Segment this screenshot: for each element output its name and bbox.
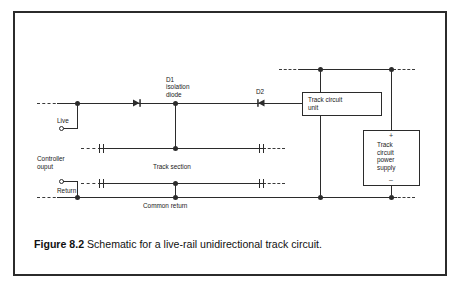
diode-d2-designator: D2 bbox=[256, 88, 264, 96]
wire-unit-to-common-return bbox=[320, 116, 321, 195]
label-live: Live bbox=[57, 117, 69, 125]
wire-live-terminal-lead bbox=[63, 128, 78, 129]
common-return-wire bbox=[57, 197, 397, 198]
common-return-dash-right bbox=[393, 197, 415, 198]
upper-rail-dash-right bbox=[263, 148, 285, 149]
node-common-return-unit bbox=[318, 195, 323, 200]
figure-page: D1 isolation diode D2 Track circuit unit… bbox=[0, 0, 460, 291]
wire-return-terminal-drop bbox=[77, 181, 78, 196]
terminal-live bbox=[59, 126, 64, 131]
wire-live-feed-to-upper-rail bbox=[175, 103, 176, 149]
track-circuit-power-supply-label: Track circuit power supply bbox=[377, 141, 395, 171]
upper-rail-dash-left bbox=[81, 148, 101, 149]
label-controller-output: Controller ouput bbox=[37, 155, 65, 170]
wire-top-bus-to-supply bbox=[391, 69, 392, 130]
power-supply-positive-sign: + bbox=[389, 132, 393, 139]
diode-d1-description: isolation diode bbox=[166, 83, 189, 98]
label-track-section: Track section bbox=[153, 163, 191, 171]
diode-d1-icon bbox=[132, 98, 143, 108]
top-bus-wire bbox=[299, 69, 395, 70]
label-common-return: Common return bbox=[143, 202, 187, 210]
wire-return-terminal-lead bbox=[63, 181, 78, 182]
wire-live-terminal-drop bbox=[77, 103, 78, 129]
power-supply-negative-sign: – bbox=[389, 176, 393, 183]
lower-rail-wire bbox=[99, 183, 265, 184]
node-common-return-supply bbox=[389, 195, 394, 200]
lower-rail-dash-right bbox=[263, 183, 285, 184]
upper-rail-wire bbox=[99, 148, 265, 149]
wire-supply-to-common-return bbox=[391, 186, 392, 195]
diode-d2-icon bbox=[255, 98, 266, 108]
figure-caption: Figure 8.2 Schematic for a live-rail uni… bbox=[34, 237, 322, 251]
node-common-return-controller bbox=[75, 195, 80, 200]
wire-top-bus-to-unit bbox=[320, 69, 321, 92]
top-bus-dash-left bbox=[279, 69, 301, 70]
lower-rail-dash-left bbox=[81, 183, 101, 184]
upper-rail-joint-left bbox=[99, 144, 104, 153]
figure-caption-label: Figure 8.2 bbox=[34, 238, 84, 250]
lower-rail-joint-left bbox=[99, 179, 104, 188]
node-common-return-rail bbox=[173, 195, 178, 200]
label-return: Return bbox=[57, 187, 76, 195]
upper-rail-joint-right bbox=[259, 144, 264, 153]
lower-rail-joint-right bbox=[259, 179, 264, 188]
top-bus-dash-right bbox=[393, 69, 415, 70]
track-circuit-unit-label: Track circuit unit bbox=[308, 96, 342, 111]
figure-caption-text: Schematic for a live-rail unidirectional… bbox=[87, 238, 322, 250]
